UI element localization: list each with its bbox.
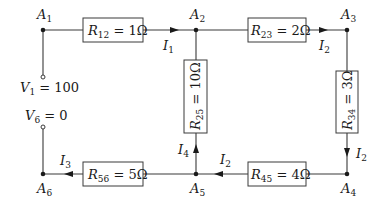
resistor-r12-label: R12 = 1Ω (87, 23, 147, 40)
arrow-left-icon (214, 171, 223, 177)
arrow-up-icon (193, 144, 199, 153)
arrow-down-icon (344, 148, 350, 157)
node-a2-label: A2 (189, 7, 205, 24)
current-i2-bottom-label: I2 (219, 152, 231, 169)
node-a5-label: A5 (189, 181, 205, 198)
source-v1-label: V1 = 100 (20, 80, 79, 97)
arrow-right-icon (170, 27, 179, 33)
resistor-r56-label: R56 = 5Ω (87, 167, 147, 184)
node-a1 (41, 28, 46, 33)
node-a1-label: A1 (36, 7, 52, 24)
current-i4-label: I4 (177, 142, 189, 159)
node-a3-label: A3 (340, 7, 356, 24)
current-i3-label: I3 (59, 153, 71, 170)
node-a4 (345, 172, 350, 177)
resistor-r23-label: R23 = 2Ω (250, 23, 310, 40)
terminal-v6 (41, 125, 45, 129)
node-a4-label: A4 (340, 181, 356, 198)
node-a2 (194, 28, 199, 33)
arrow-right-icon (319, 27, 328, 33)
node-a6-label: A6 (36, 181, 52, 198)
source-v6-label: V6 = 0 (25, 108, 68, 125)
resistor-r25-label: R25 = 10Ω (188, 62, 205, 131)
resistor-r45-label: R45 = 4Ω (250, 167, 310, 184)
circuit-diagram: R12 = 1Ω R23 = 2Ω R25 = 10Ω R34 = 3Ω R45… (0, 0, 381, 206)
node-a3 (345, 28, 350, 33)
current-i2-right-label: I2 (355, 146, 367, 163)
current-i2-top-label: I2 (318, 38, 330, 55)
terminal-v1 (41, 75, 45, 79)
current-i1-label: I1 (162, 38, 174, 55)
arrow-left-icon (64, 171, 73, 177)
resistor-r34-label: R34 = 3Ω (340, 71, 357, 131)
node-a6 (41, 172, 46, 177)
node-a5 (194, 172, 199, 177)
